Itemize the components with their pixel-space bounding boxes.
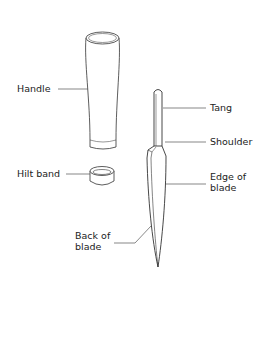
label-handle: Handle xyxy=(17,83,51,94)
hilt-band-illustration xyxy=(90,167,114,186)
knife-parts-diagram: Handle Hilt band Tang Shoulder Edge of b… xyxy=(0,0,274,340)
label-back-of-blade: Back of blade xyxy=(75,230,110,252)
label-hilt-band: Hilt band xyxy=(17,168,60,179)
label-back-of-blade-line2: blade xyxy=(75,241,110,252)
label-tang: Tang xyxy=(210,102,232,113)
label-shoulder: Shoulder xyxy=(210,136,252,147)
label-edge-of-blade-line2: blade xyxy=(210,182,246,193)
label-edge-of-blade-line1: Edge of xyxy=(210,171,246,182)
leader-lines xyxy=(58,89,206,243)
handle-illustration xyxy=(86,32,120,149)
label-edge-of-blade: Edge of blade xyxy=(210,171,246,193)
label-back-of-blade-line1: Back of xyxy=(75,230,110,241)
blade-illustration xyxy=(147,90,166,268)
